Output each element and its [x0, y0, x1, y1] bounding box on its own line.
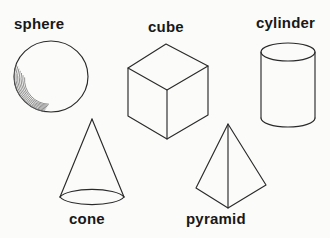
pyramid-silhouette [196, 124, 266, 208]
shape-label-cube: cube [148, 19, 184, 34]
pyramid-drawing [196, 124, 266, 208]
geometric-solids-figure: sphere cube cylinder cone pyramid [0, 0, 330, 238]
sphere-outline [14, 41, 88, 112]
shape-label-pyramid: pyramid [186, 211, 246, 226]
cube-top-face-edges [128, 66, 208, 90]
cylinder-drawing [261, 43, 315, 127]
shape-label-sphere: sphere [14, 16, 64, 31]
shape-label-cone: cone [69, 211, 105, 226]
cube-drawing [128, 44, 208, 139]
cube-silhouette [128, 44, 208, 139]
sphere-shading-hatch [14, 65, 49, 112]
sphere-drawing [14, 41, 88, 112]
cylinder-top-ellipse [261, 43, 315, 61]
shape-label-cylinder: cylinder [256, 15, 315, 30]
cone-left-slant [60, 119, 92, 197]
cone-drawing [60, 119, 124, 205]
cylinder-bottom-curve [261, 118, 315, 127]
cone-base-ellipse-back [60, 189, 124, 197]
cone-right-slant [92, 119, 124, 197]
cone-base-ellipse-front [60, 197, 124, 205]
shapes-canvas [0, 0, 330, 238]
